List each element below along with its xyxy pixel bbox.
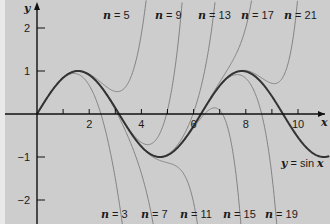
- top-series-label: n = 13: [198, 9, 231, 22]
- x-tick-label: 10: [292, 118, 304, 130]
- bottom-series-label: n = 15: [223, 208, 256, 221]
- x-tick-label: 8: [243, 118, 249, 130]
- top-series-label: n = 21: [284, 9, 317, 22]
- bottom-series-label: n = 11: [180, 208, 212, 221]
- x-tick-label: 4: [138, 118, 144, 130]
- taylor-sin-chart: 24681021−1−2xyn = 5n = 9n = 13n = 17n = …: [0, 0, 330, 224]
- x-tick-label: 2: [86, 118, 92, 130]
- y-tick-label: −1: [17, 151, 30, 163]
- y-tick-label: −2: [17, 194, 30, 206]
- bottom-series-label: n = 7: [141, 208, 168, 221]
- bottom-series-label: n = 19: [265, 208, 298, 221]
- top-series-label: n = 5: [103, 9, 130, 22]
- x-axis-label: x: [320, 116, 328, 129]
- y-tick-label: 1: [24, 65, 30, 77]
- sin-curve-label: y = sin x: [280, 157, 324, 170]
- y-tick-label: 2: [24, 22, 30, 34]
- bottom-series-label: n = 3: [101, 208, 128, 221]
- top-series-label: n = 9: [155, 9, 182, 22]
- x-tick-label: 6: [191, 118, 197, 130]
- top-series-label: n = 17: [241, 9, 274, 22]
